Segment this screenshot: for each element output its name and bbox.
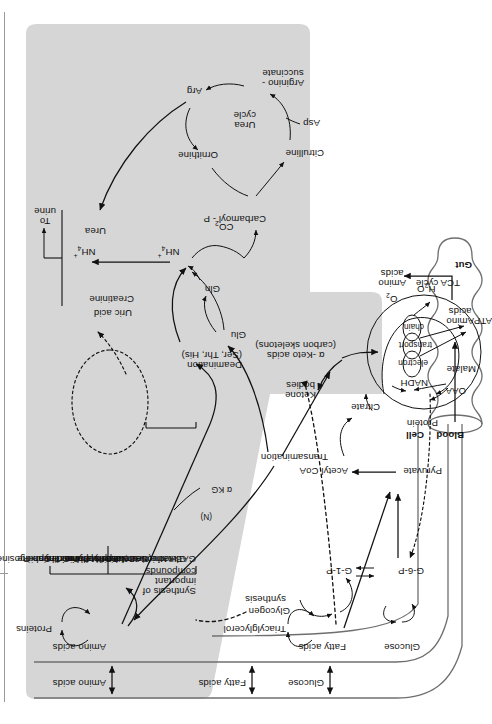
label-citrate: Citrate [351, 402, 380, 412]
label-pyruvate: Pyruvate [403, 466, 442, 476]
label-triacylglycerol-synthesis: synthesis [245, 594, 286, 604]
label-alpha-kg: α KG [211, 485, 232, 494]
label-gut-amino-acids: Amino acids [446, 306, 474, 326]
label-carbamoyl-p: Carbamoyl - P [203, 214, 266, 224]
label-nitrogen-tag: (N) [200, 511, 212, 520]
label-etc-transport: transport [399, 339, 432, 348]
label-blood: Blood [436, 430, 464, 440]
label-gln: Gln [205, 284, 220, 294]
label-transamination: Transamination [261, 452, 328, 462]
label-synthesis-of-important-compounds: Synthesis of important compounds [143, 566, 196, 596]
label-malate: Malate [447, 364, 476, 374]
label-excreted-ammonium: NH4+ [74, 234, 112, 268]
label-triacylglycerol: Triacylglycerol [224, 624, 286, 634]
label-protein: Protein [407, 418, 438, 428]
label-creatinine: Creatinine [89, 294, 134, 304]
label-nh4: NH4+ [158, 234, 196, 268]
label-glu: Glu [231, 330, 246, 340]
label-g6p: G-6-P [398, 566, 424, 576]
label-absorbed-amino-acids: Amino acids [378, 268, 406, 288]
label-atp: ATP [474, 316, 492, 326]
label-ornithine: Ornithine [178, 150, 218, 160]
label-cell-proteins: Proteins [16, 624, 52, 634]
label-cell: Cell [406, 430, 424, 440]
label-blood-glucose: Glucose [288, 678, 324, 688]
label-nadh: NADH [400, 378, 428, 388]
label-citrulline: Citrulline [286, 148, 324, 158]
label-arg: Arg [187, 86, 202, 96]
label-ketone-bodies: Ketone bodies [285, 380, 316, 400]
label-tca-cycle-title: TCA cycle [416, 278, 460, 288]
label-g1p: G-1-P [326, 566, 352, 576]
label-to-urine: To urine [34, 206, 56, 226]
label-cell-glucose: Glucose [384, 642, 420, 652]
label-cell-fatty-acids: Fatty acids [299, 642, 347, 652]
label-oaa: OAA [445, 386, 466, 396]
label-acetyl-coa: Acetyl CoA [300, 466, 348, 476]
label-uric-acid: Uric acid [94, 308, 132, 318]
label-blood-fatty-acids: Fatty acids [199, 678, 247, 688]
label-deamination: Deamination (Ser, Thr, His) [182, 350, 243, 370]
label-blood-amino-acids: Amino acids [53, 678, 106, 688]
label-gut: Gut [455, 260, 472, 270]
label-etc-chain: chain [404, 321, 424, 330]
label-urea-cycle-title: Urea cycle [234, 110, 256, 130]
label-argininosuccinate: Arginino - succinate [262, 68, 304, 88]
label-urea: Urea [85, 226, 106, 236]
label-etc-electron: electron [398, 357, 428, 366]
important-compound-item: Sphingosine [0, 554, 51, 564]
label-keto-acids: α -Keto acids (carbon skeletons) [255, 340, 336, 360]
label-cell-amino-acids: Amino acids [53, 642, 106, 652]
label-glycogen: Glycogen [249, 606, 290, 616]
label-asp: Asp [303, 118, 320, 128]
